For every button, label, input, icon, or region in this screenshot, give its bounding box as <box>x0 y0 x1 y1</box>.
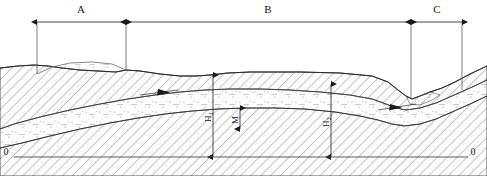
datum-label-left: 0 <box>4 146 9 157</box>
hydrogeological-cross-section-diagram: A B C H1 M <box>0 0 487 176</box>
dimension-label-m: M <box>230 116 240 124</box>
geology-group <box>0 62 487 176</box>
dimension-label-b: B <box>264 3 271 15</box>
dimension-label-a: A <box>77 3 85 15</box>
diagram-canvas: A B C H1 M <box>0 0 487 176</box>
dimension-label-c: C <box>433 3 440 15</box>
datum-label-right: 0 <box>471 146 476 157</box>
